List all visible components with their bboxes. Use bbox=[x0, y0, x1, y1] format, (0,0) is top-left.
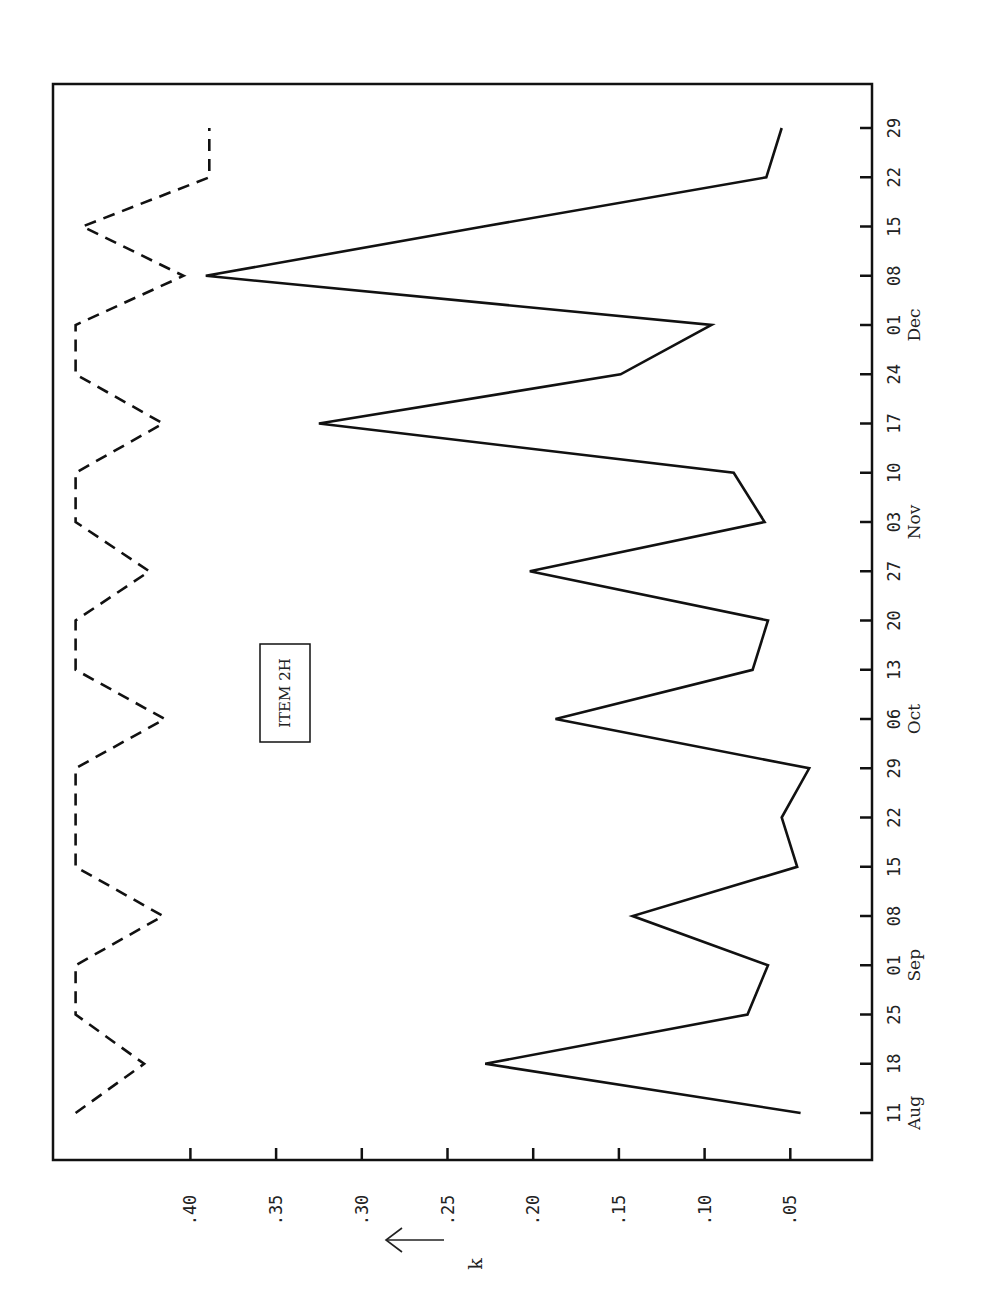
date-tick-label: 29 bbox=[884, 758, 904, 778]
date-tick-label: 01 bbox=[884, 315, 904, 335]
date-tick-label: 15 bbox=[884, 857, 904, 877]
date-tick-label: 10 bbox=[884, 463, 904, 483]
k-tick-label: .05 bbox=[780, 1195, 800, 1226]
k-tick-label: .40 bbox=[180, 1195, 200, 1226]
chart: .40.35.30.25.20.15.10.05 111825010815222… bbox=[0, 0, 985, 1312]
month-label: Sep bbox=[904, 949, 924, 982]
k-tick-label: .15 bbox=[609, 1195, 629, 1226]
item-label-box: ITEM 2H bbox=[260, 644, 310, 742]
k-axis-title: k bbox=[386, 1228, 486, 1270]
date-tick-label: 08 bbox=[884, 906, 904, 926]
date-tick-label: 15 bbox=[884, 216, 904, 236]
date-tick-label: 22 bbox=[884, 167, 904, 187]
k-tick-label: .10 bbox=[695, 1195, 715, 1226]
date-tick-label: 17 bbox=[884, 413, 904, 433]
date-tick-label: 11 bbox=[884, 1103, 904, 1123]
plot-frame bbox=[53, 84, 872, 1160]
date-tick-label: 06 bbox=[884, 709, 904, 729]
date-tick-label: 24 bbox=[884, 364, 904, 384]
date-tick-label: 22 bbox=[884, 807, 904, 827]
k-tick-label: .35 bbox=[266, 1195, 286, 1226]
date-tick-label: 27 bbox=[884, 561, 904, 581]
item-label: ITEM 2H bbox=[276, 658, 294, 728]
k-axis-name: k bbox=[464, 1258, 486, 1270]
month-label: Dec bbox=[904, 308, 924, 341]
k-tick-label: .30 bbox=[352, 1195, 372, 1226]
month-label: Oct bbox=[904, 704, 924, 734]
date-tick-label: 01 bbox=[884, 955, 904, 975]
series-solid-line bbox=[206, 128, 809, 1113]
month-label: Nov bbox=[904, 504, 924, 539]
date-tick-label: 13 bbox=[884, 660, 904, 680]
month-label: Aug bbox=[904, 1096, 924, 1131]
series-dashed-line bbox=[76, 128, 210, 1113]
date-axis-ticks: 1118250108152229061320270310172401081522… bbox=[860, 118, 924, 1131]
arrow-left-icon bbox=[386, 1228, 444, 1252]
date-tick-label: 20 bbox=[884, 610, 904, 630]
k-tick-label: .20 bbox=[523, 1195, 543, 1226]
date-tick-label: 08 bbox=[884, 266, 904, 286]
date-tick-label: 29 bbox=[884, 118, 904, 138]
date-tick-label: 18 bbox=[884, 1054, 904, 1074]
date-tick-label: 25 bbox=[884, 1004, 904, 1024]
k-tick-label: .25 bbox=[438, 1195, 458, 1226]
date-tick-label: 03 bbox=[884, 512, 904, 532]
